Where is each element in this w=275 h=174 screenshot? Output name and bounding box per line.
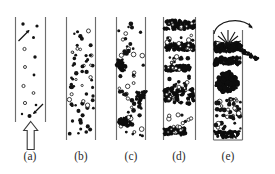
- panel-label-b: (b): [61, 150, 101, 162]
- panel-e-bubbles: [214, 97, 243, 131]
- panel-label-d: (d): [159, 150, 199, 162]
- panel-e-group: [212, 21, 259, 140]
- panel-b-group: [67, 17, 96, 140]
- panel-label-a: (a): [10, 150, 50, 162]
- panel-a-group: [16, 17, 46, 150]
- panel-e-burst-icon: [215, 30, 241, 44]
- panel-e-ejection-arrow: [214, 21, 253, 34]
- panel-label-c: (c): [111, 150, 151, 162]
- panel-a-pointer-arrow-lower: [33, 104, 43, 114]
- figure-canvas: [0, 0, 275, 174]
- panel-c-group: [114, 17, 149, 140]
- panel-d-group: [162, 17, 197, 140]
- panel-a-inlet-arrow: [24, 122, 38, 150]
- flow-regime-figure: [0, 0, 275, 174]
- panel-b-bubbles: [67, 29, 94, 136]
- panel-a-pointer-arrow-upper: [19, 30, 30, 41]
- panel-label-e: (e): [208, 150, 248, 162]
